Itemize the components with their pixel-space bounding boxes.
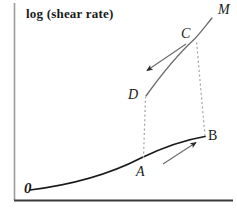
point-label-a: A: [136, 164, 145, 180]
y-axis-title: log (shear rate): [26, 6, 113, 22]
shear-rate-figure: log (shear rate) M C D B A 0: [0, 0, 237, 213]
point-label-d: D: [128, 87, 138, 103]
decreasing-arrow: [147, 44, 186, 71]
dashed-jump-b-c: [197, 41, 206, 136]
upper-branch-curve: [146, 18, 212, 96]
dashed-jump-a-d: [144, 97, 146, 158]
point-label-b: B: [208, 128, 217, 144]
point-label-m: M: [218, 2, 230, 18]
point-label-c: C: [181, 26, 190, 42]
origin-label: 0: [24, 180, 32, 197]
lower-branch-curve: [30, 137, 205, 191]
figure-canvas: [0, 0, 237, 213]
